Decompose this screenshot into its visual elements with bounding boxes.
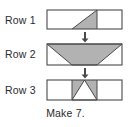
row-2-figure bbox=[47, 44, 122, 65]
arrow-row2-to-row3 bbox=[82, 68, 89, 79]
arrow-head-1 bbox=[82, 39, 89, 43]
quilt-block-diagram: Row 1 Row 2 Row 3 bbox=[0, 0, 131, 127]
row-1-figure bbox=[47, 10, 122, 29]
row-3-figure bbox=[47, 80, 122, 100]
arrow-head-2 bbox=[82, 75, 89, 79]
make-count-caption: Make 7. bbox=[0, 108, 131, 119]
arrow-row1-to-row2 bbox=[82, 32, 89, 43]
